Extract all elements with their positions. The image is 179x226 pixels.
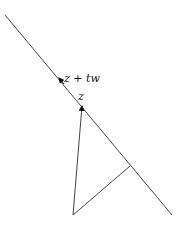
diagram-canvas: z + tw z bbox=[0, 0, 179, 226]
perpendicular-segment bbox=[73, 166, 130, 215]
line-z-plus-tw bbox=[5, 15, 172, 215]
label-z-plus-tw: z + tw bbox=[64, 73, 100, 84]
vector-z bbox=[73, 106, 82, 215]
label-z: z bbox=[78, 91, 84, 102]
diagram-svg bbox=[0, 0, 179, 226]
